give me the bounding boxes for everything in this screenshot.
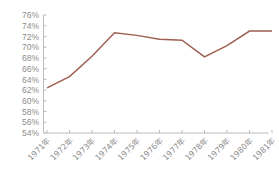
x-tick-label: 1977年 (160, 135, 187, 162)
x-tick-label: 1974年 (93, 135, 120, 162)
y-tick-label: 62% (22, 85, 39, 95)
x-axis-tick-labels: 1971年1972年1973年1974年1975年1976年1977年1978年… (25, 135, 277, 162)
line-chart: 54%56%58%60%62%64%66%68%70%72%74%76% 197… (0, 0, 279, 173)
y-tick-label: 60% (22, 96, 39, 106)
y-tick-label: 70% (22, 42, 39, 52)
y-tick-label: 72% (22, 32, 39, 42)
y-tick-label: 68% (22, 53, 39, 63)
y-tick-label: 64% (22, 75, 39, 85)
x-tick-label: 1979年 (205, 135, 232, 162)
y-tick-label: 66% (22, 64, 39, 74)
x-tick-label: 1971年 (25, 135, 52, 162)
y-tick-label: 74% (22, 21, 39, 31)
y-tick-label: 76% (22, 10, 39, 20)
x-tick-label: 1975年 (115, 135, 142, 162)
axis-frame (44, 15, 269, 133)
data-series-line (47, 31, 272, 88)
y-axis-tick-labels: 54%56%58%60%62%64%66%68%70%72%74%76% (22, 10, 39, 138)
x-tick-label: 1972年 (48, 135, 75, 162)
y-tick-label: 54% (22, 128, 39, 138)
x-tick-label: 1978年 (183, 135, 210, 162)
chart-canvas: 54%56%58%60%62%64%66%68%70%72%74%76% 197… (0, 0, 279, 173)
x-tick-label: 1973年 (70, 135, 97, 162)
x-tick-label: 1980年 (228, 135, 255, 162)
y-tick-label: 56% (22, 117, 39, 127)
x-tick-label: 1976年 (138, 135, 165, 162)
y-tick-label: 58% (22, 107, 39, 117)
x-tick-label: 1981年 (250, 135, 277, 162)
